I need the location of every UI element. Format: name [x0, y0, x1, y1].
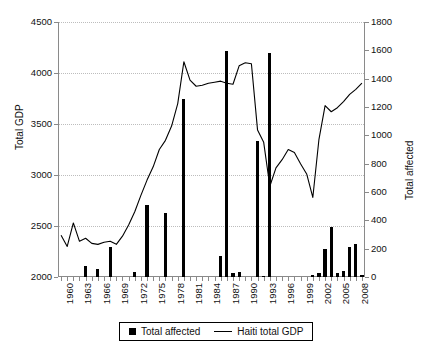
x-tick [294, 277, 295, 281]
x-tick-label: 1990 [249, 283, 259, 304]
x-tick [331, 277, 332, 281]
x-tick-label: 1969 [120, 283, 130, 304]
x-tick [301, 277, 302, 281]
x-tick-label: 1975 [157, 283, 167, 304]
x-tick-label: 1999 [305, 283, 315, 304]
x-tick [362, 277, 363, 281]
chart-legend: Total affected Haiti total GDP [119, 322, 313, 341]
y-tick-label-left: 4000 [31, 68, 52, 78]
x-tick-label: 1966 [102, 283, 112, 304]
y-tick-label-left: 2000 [31, 272, 52, 282]
y-tick-label-right: 800 [371, 159, 387, 169]
y2-tick [365, 50, 369, 51]
line-swatch-icon [214, 331, 232, 332]
x-tick-label: 1972 [139, 283, 149, 304]
x-tick-label: 1984 [212, 283, 222, 304]
y2-tick [365, 107, 369, 108]
y2-tick [365, 277, 369, 278]
y2-tick [365, 135, 369, 136]
x-tick [307, 277, 308, 281]
x-tick-label: 2008 [360, 283, 370, 304]
x-tick [129, 277, 130, 281]
x-tick-label: 1960 [65, 283, 75, 304]
x-tick [337, 277, 338, 281]
legend-label-total-affected: Total affected [141, 326, 200, 337]
x-tick [98, 277, 99, 281]
x-tick [190, 277, 191, 281]
y2-tick [365, 164, 369, 165]
x-tick [258, 277, 259, 281]
x-tick [153, 277, 154, 281]
x-tick [325, 277, 326, 281]
y-tick-label-right: 200 [371, 244, 387, 254]
x-tick [116, 277, 117, 281]
y-tick [54, 277, 58, 278]
x-tick [276, 277, 277, 281]
legend-item-total-affected: Total affected [129, 326, 200, 337]
y-tick-label-left: 2500 [31, 221, 52, 231]
bar-swatch-icon [129, 328, 136, 335]
x-tick [165, 277, 166, 281]
x-tick [356, 277, 357, 281]
x-tick [264, 277, 265, 281]
chart-figure: Total GDP Total affected 200025003000350… [0, 0, 421, 350]
x-tick [208, 277, 209, 281]
x-tick [270, 277, 271, 281]
x-tick [73, 277, 74, 281]
x-tick [245, 277, 246, 281]
legend-item-haiti-total-gdp: Haiti total GDP [214, 326, 303, 337]
x-tick [344, 277, 345, 281]
y2-tick [365, 220, 369, 221]
y2-tick [365, 249, 369, 250]
y2-tick [365, 192, 369, 193]
x-tick [104, 277, 105, 281]
x-tick [172, 277, 173, 281]
y-axis-title-right: Total affected [404, 141, 415, 200]
y-tick-label-right: 1400 [371, 74, 392, 84]
x-tick [178, 277, 179, 281]
y-tick-label-right: 0 [371, 272, 376, 282]
x-tick [227, 277, 228, 281]
x-tick-label: 1987 [231, 283, 241, 304]
x-tick [184, 277, 185, 281]
x-tick [135, 277, 136, 281]
x-tick [233, 277, 234, 281]
y2-tick [365, 22, 369, 23]
x-tick [110, 277, 111, 281]
x-tick [282, 277, 283, 281]
y-tick-label-right: 400 [371, 216, 387, 226]
legend-label-haiti-total-gdp: Haiti total GDP [237, 326, 303, 337]
plot-area: 200025003000350040004500 020040060080010… [58, 22, 365, 277]
x-tick [202, 277, 203, 281]
x-tick [251, 277, 252, 281]
x-tick [196, 277, 197, 281]
x-tick-label: 1993 [268, 283, 278, 304]
y-tick-label-right: 1000 [371, 131, 392, 141]
x-tick [313, 277, 314, 281]
x-tick [239, 277, 240, 281]
x-tick-label: 2005 [341, 283, 351, 304]
y-tick-label-right: 1800 [371, 17, 392, 27]
x-tick [159, 277, 160, 281]
x-tick [215, 277, 216, 281]
y-tick-label-right: 1200 [371, 102, 392, 112]
x-tick-label: 1978 [176, 283, 186, 304]
x-tick-label: 1963 [83, 283, 93, 304]
x-tick-label: 1981 [194, 283, 204, 304]
x-tick-label: 2002 [323, 283, 333, 304]
line-series-haiti-total-gdp [58, 22, 365, 277]
x-tick [221, 277, 222, 281]
y2-tick [365, 79, 369, 80]
x-tick [61, 277, 62, 281]
x-tick [319, 277, 320, 281]
x-tick [141, 277, 142, 281]
x-tick [92, 277, 93, 281]
x-tick [122, 277, 123, 281]
x-tick [67, 277, 68, 281]
y-tick-label-right: 1600 [371, 46, 392, 56]
x-tick [79, 277, 80, 281]
x-tick [147, 277, 148, 281]
y-tick-label-left: 3000 [31, 170, 52, 180]
y-tick-label-left: 3500 [31, 119, 52, 129]
x-tick-label: 1996 [286, 283, 296, 304]
